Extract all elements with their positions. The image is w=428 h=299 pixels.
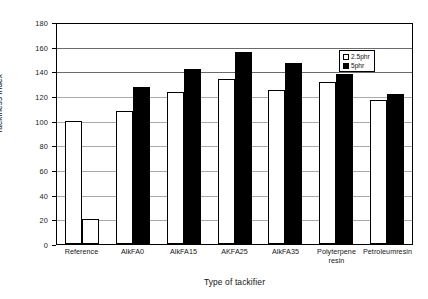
x-tick-label: AlkFA0 <box>107 248 158 276</box>
bar[interactable] <box>82 219 99 244</box>
y-tick-label: 60 <box>0 167 48 176</box>
bar[interactable] <box>268 90 285 244</box>
y-tick-label: 0 <box>0 241 48 250</box>
legend-swatch-icon <box>343 54 349 60</box>
x-tick-label-line: resin <box>311 257 362 266</box>
bar[interactable] <box>285 63 302 244</box>
y-tick-label: 80 <box>0 142 48 151</box>
x-tick-label: Petroleumresin <box>362 248 413 276</box>
legend-label: 2.5phr <box>351 53 370 60</box>
y-tick-label: 120 <box>0 93 48 102</box>
bar[interactable] <box>133 87 150 244</box>
bar[interactable] <box>116 111 133 244</box>
legend-label: 5phr <box>351 62 364 69</box>
bar-group <box>209 24 260 244</box>
legend-item[interactable]: 2.5phr <box>343 53 370 60</box>
y-tick-label: 40 <box>0 191 48 200</box>
x-axis-labels: ReferenceAlkFA0AlkFA15AKFA25AlkFA35Polyt… <box>56 248 413 276</box>
bar[interactable] <box>370 100 387 244</box>
y-tick-label: 140 <box>0 68 48 77</box>
bar[interactable] <box>184 69 201 244</box>
x-tick-label: AlkFA15 <box>158 248 209 276</box>
x-tick-label: Polyterpeneresin <box>311 248 362 276</box>
x-tick-label: Reference <box>56 248 107 276</box>
bar[interactable] <box>65 121 82 244</box>
y-tick-label: 160 <box>0 43 48 52</box>
x-tick-label-line: AKFA25 <box>209 248 260 257</box>
bar-group <box>108 24 159 244</box>
x-tick-label-line: Petroleumresin <box>362 248 413 257</box>
x-tick-label-line: AlkFA35 <box>260 248 311 257</box>
legend: 2.5phr5phr <box>339 50 375 72</box>
x-tick-label: AlkFA35 <box>260 248 311 276</box>
x-tick-label-line: AlkFA15 <box>158 248 209 257</box>
bar[interactable] <box>387 94 404 244</box>
bar[interactable] <box>218 79 235 244</box>
legend-item[interactable]: 5phr <box>343 62 370 69</box>
y-tick-label: 180 <box>0 19 48 28</box>
bar[interactable] <box>235 52 252 244</box>
bar-group <box>260 24 311 244</box>
legend-swatch-icon <box>343 63 349 69</box>
bar[interactable] <box>319 82 336 244</box>
x-tick-label: AKFA25 <box>209 248 260 276</box>
y-tick-label: 20 <box>0 216 48 225</box>
y-tick-mark <box>52 245 56 246</box>
bar-chart: Tackiness index 180160140120100806040200… <box>0 0 428 299</box>
y-tick-label: 100 <box>0 117 48 126</box>
bar-group <box>158 24 209 244</box>
x-tick-label-line: Reference <box>56 248 107 257</box>
x-tick-label-line: AlkFA0 <box>107 248 158 257</box>
bar-group <box>57 24 108 244</box>
bar[interactable] <box>336 74 353 244</box>
bar[interactable] <box>167 92 184 244</box>
x-axis-title: Type of tackifier <box>56 277 413 287</box>
